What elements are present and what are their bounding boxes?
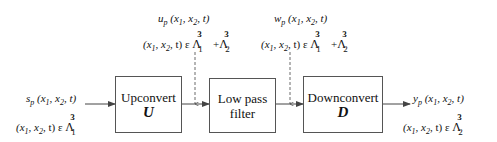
w-signal-label: wp (x1, x2, t) [274,12,327,29]
upconvert-label: Upconvert [121,90,176,105]
upconvert-block: Upconvert U [115,76,182,133]
lowpass-label-1: Low pass [218,91,267,106]
u-domain-label: (x1, x2, t) ε Λ31+Λ32 [143,38,228,55]
w-domain-label: (x1, x2, t) ε Λ31+Λ32 [261,38,346,55]
output-domain-label: (x1, x2, t) ε Λ32 [403,121,461,138]
u-signal-label: up (x1, x2, t) [158,12,209,29]
input-domain-label: (x1, x2, t) ε Λ31 [16,121,74,138]
input-signal-label: sp (x1, x2, t) [26,92,76,109]
downconvert-symbol: D [338,105,349,120]
downconvert-block: Downconvert D [303,76,383,133]
lowpass-label-2: filter [230,106,255,121]
downconvert-label: Downconvert [308,90,379,105]
block-diagram: Upconvert U Low pass filter Downconvert … [0,0,497,142]
lowpass-block: Low pass filter [209,78,276,133]
output-signal-label: yp (x1, x2, t) [413,92,464,109]
upconvert-symbol: U [143,105,154,120]
